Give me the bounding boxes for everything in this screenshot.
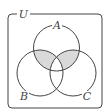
universe-label: U	[19, 8, 29, 21]
set-label-c: C	[83, 90, 92, 103]
set-label-a: A	[52, 19, 61, 32]
set-label-b: B	[19, 90, 28, 103]
venn-diagram: U A B C	[0, 0, 106, 112]
